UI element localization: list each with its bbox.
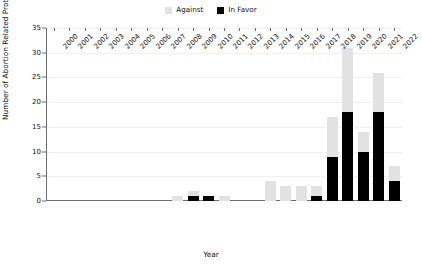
bar-group[interactable] [373,28,384,201]
bar-group[interactable] [219,28,230,201]
bar-group[interactable] [327,28,338,201]
x-tick-mark [348,28,349,31]
bar-segment-against[interactable] [311,186,322,196]
plot-area: 05101520253035 2000200120022003200420052… [46,28,402,201]
legend-label-in-favor: In Favor [228,6,256,14]
x-tick-mark [147,28,148,31]
bar-group[interactable] [64,28,75,201]
bar-group[interactable] [110,28,121,201]
bar-segment-in-favor[interactable] [311,196,322,201]
bar-group[interactable] [311,28,322,201]
bar-segment-in-favor[interactable] [188,196,199,201]
bar-segment-against[interactable] [188,191,199,196]
bar-group[interactable] [157,28,168,201]
bar-segment-against[interactable] [219,196,230,201]
bar-group[interactable] [234,28,245,201]
x-tick-mark [332,28,333,31]
x-tick-mark [131,28,132,31]
bar-segment-against[interactable] [342,48,353,112]
bar-segment-against[interactable] [389,166,400,181]
x-tick-mark [379,28,380,31]
bar-segment-in-favor[interactable] [373,112,384,201]
x-tick-label: 2022 [402,33,420,51]
bar-group[interactable] [141,28,152,201]
bar-segment-against[interactable] [265,181,276,201]
x-tick-mark [54,28,55,31]
legend-item-in-favor: In Favor [217,6,256,14]
chart-legend: Against In Favor [0,6,422,14]
bar-group[interactable] [280,28,291,201]
bar-segment-in-favor[interactable] [358,152,369,201]
bar-segment-in-favor[interactable] [203,196,214,201]
bar-segment-against[interactable] [358,132,369,152]
x-tick-mark [193,28,194,31]
x-tick-mark [394,28,395,31]
y-axis-title: Number of Abortion Related Protests [2,0,10,120]
bar-group[interactable] [95,28,106,201]
legend-swatch-in-favor [217,7,224,14]
bar-segment-in-favor[interactable] [389,181,400,201]
bar-group[interactable] [358,28,369,201]
x-tick-mark [162,28,163,31]
chart-container: Against In Favor 05101520253035 20002001… [0,0,422,268]
legend-item-against: Against [165,6,203,14]
bar-group[interactable] [188,28,199,201]
x-tick-mark [286,28,287,31]
x-tick-mark [116,28,117,31]
legend-swatch-against [165,7,172,14]
x-tick-mark [270,28,271,31]
bar-group[interactable] [126,28,137,201]
bar-group[interactable] [342,28,353,201]
x-tick-mark [363,28,364,31]
bar-group[interactable] [203,28,214,201]
x-tick-mark [100,28,101,31]
bar-group[interactable] [389,28,400,201]
bar-group[interactable] [172,28,183,201]
bar-segment-against[interactable] [373,73,384,113]
bar-segment-against[interactable] [172,196,183,201]
x-tick-mark [255,28,256,31]
bar-group[interactable] [48,28,59,201]
x-tick-mark [317,28,318,31]
x-axis-title: Year [0,250,422,259]
x-tick-mark [69,28,70,31]
bar-segment-against[interactable] [280,186,291,201]
bar-series-group [46,28,402,201]
x-tick-mark [239,28,240,31]
legend-label-against: Against [176,6,203,14]
x-tick-mark [224,28,225,31]
bar-group[interactable] [296,28,307,201]
x-tick-mark [209,28,210,31]
x-tick-mark [178,28,179,31]
bar-group[interactable] [249,28,260,201]
bar-segment-in-favor[interactable] [327,157,338,201]
bar-segment-in-favor[interactable] [342,112,353,201]
bar-group[interactable] [79,28,90,201]
bar-segment-against[interactable] [296,186,307,201]
x-tick-mark [301,28,302,31]
x-tick-mark [85,28,86,31]
bar-group[interactable] [265,28,276,201]
bar-segment-against[interactable] [327,117,338,157]
